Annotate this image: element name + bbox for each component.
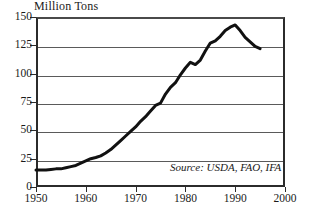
x-axis-label: 1950	[13, 192, 59, 204]
y-axis-title: Million Tons	[34, 0, 98, 14]
line-chart: Million Tons 150 125 100 75 50 25 0 1950…	[0, 0, 314, 215]
y-axis-label: 75	[2, 96, 32, 108]
series-polyline	[36, 25, 260, 170]
y-axis-label: 125	[2, 39, 32, 51]
y-axis-label: 150	[2, 11, 32, 23]
x-axis-label: 1970	[113, 192, 159, 204]
source-note: Source: USDA, FAO, IFA	[170, 161, 281, 173]
y-axis-label: 0	[2, 181, 32, 193]
y-axis-label: 25	[2, 153, 32, 165]
x-axis-label: 2000	[262, 192, 308, 204]
x-axis-label: 1960	[63, 192, 109, 204]
x-axis-label: 1980	[162, 192, 208, 204]
x-axis-label: 1990	[212, 192, 258, 204]
y-axis-label: 50	[2, 124, 32, 136]
y-axis-label: 100	[2, 68, 32, 80]
